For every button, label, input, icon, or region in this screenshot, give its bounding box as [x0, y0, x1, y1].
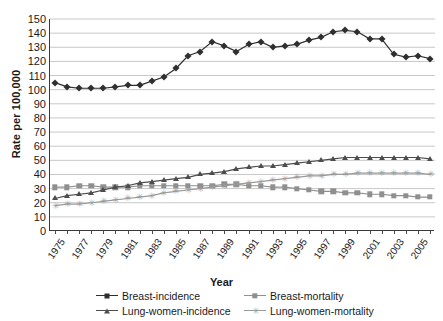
- legend-item-lung-women-incidence[interactable]: Lung-women-incidence: [96, 303, 244, 318]
- x-axis-tick-label: 1975: [46, 237, 67, 261]
- data-point-marker: [136, 194, 143, 201]
- data-point-marker: [100, 198, 107, 205]
- y-axis-tick-label: 90: [34, 98, 46, 109]
- y-axis-title: Rate per 100,000: [10, 54, 22, 174]
- x-axis-tick-label: 1981: [119, 237, 140, 261]
- legend-label: Lung-women-mortality: [270, 305, 374, 317]
- legend-label: Breast-incidence: [122, 290, 200, 302]
- x-axis-tick-label: 1989: [216, 237, 237, 261]
- data-point-marker: [366, 170, 373, 177]
- x-axis-tick-label: 1999: [337, 237, 358, 261]
- x-axis-tick-label: 1977: [70, 237, 91, 261]
- data-point-marker: [64, 201, 71, 208]
- legend-label: Breast-mortality: [270, 290, 344, 302]
- x-axis-tick-label: 1983: [143, 237, 164, 261]
- x-axis-tick-label: 1987: [191, 237, 212, 261]
- x-axis-tick-label: 1979: [95, 237, 116, 261]
- data-point-marker: [148, 192, 155, 199]
- y-axis-tick-label: 60: [34, 141, 46, 152]
- y-axis-tick-label: 50: [34, 155, 46, 166]
- y-axis-tick-label: 0: [40, 226, 46, 237]
- data-point-marker: [269, 177, 276, 184]
- data-point-marker: [293, 174, 300, 181]
- y-axis-tick-label: 100: [28, 84, 46, 95]
- data-point-marker: [306, 172, 313, 179]
- legend-item-lung-women-mortality[interactable]: Lung-women-mortality: [244, 303, 394, 318]
- plot-area: 0102030405060708090100110120130140150197…: [49, 19, 434, 231]
- data-point-marker: [390, 170, 397, 177]
- y-axis-tick-label: 120: [28, 56, 46, 67]
- y-axis-tick-label: 150: [28, 14, 46, 25]
- chart-container: Rate per 100,000 01020304050607080901001…: [0, 0, 443, 321]
- legend-item-breast-mortality[interactable]: Breast-mortality: [244, 288, 394, 303]
- data-point-marker: [197, 185, 204, 192]
- y-axis-tick-label: 30: [34, 183, 46, 194]
- data-point-marker: [76, 201, 83, 208]
- y-axis-tick-label: 80: [34, 112, 46, 123]
- plot-inner: 0102030405060708090100110120130140150197…: [50, 19, 434, 230]
- y-axis-tick-label: 140: [28, 28, 46, 39]
- diamond-marker-icon: [96, 290, 118, 301]
- data-point-marker: [354, 170, 361, 177]
- data-point-marker: [185, 187, 192, 194]
- data-point-marker: [414, 170, 421, 177]
- data-point-marker: [221, 182, 228, 189]
- data-point-marker: [402, 170, 409, 177]
- square-marker-icon: [244, 290, 266, 301]
- data-point-marker: [378, 170, 385, 177]
- y-axis-tick-label: 40: [34, 169, 46, 180]
- data-point-marker: [112, 196, 119, 203]
- x-axis-tick-label: 2001: [361, 237, 382, 261]
- y-axis-tick-label: 130: [28, 42, 46, 53]
- data-point-marker: [233, 181, 240, 188]
- x-axis-tick-label: 1985: [167, 237, 188, 261]
- data-point-marker: [209, 184, 216, 191]
- data-point-marker: [342, 171, 349, 178]
- x-axis-tick-label: 1995: [288, 237, 309, 261]
- data-point-marker: [124, 195, 131, 202]
- x-axis-tick-label: 1991: [240, 237, 261, 261]
- triangle-marker-icon: [96, 305, 118, 316]
- x-axis-tick-label: 2003: [385, 237, 406, 261]
- x-axis-tick-label: 1993: [264, 237, 285, 261]
- x-marker-icon: [244, 305, 266, 316]
- y-axis-tick-label: 10: [34, 211, 46, 222]
- data-point-marker: [427, 171, 434, 178]
- y-axis-tick-label: 20: [34, 197, 46, 208]
- legend-label: Lung-women-incidence: [122, 305, 231, 317]
- y-axis-tick-label: 110: [28, 70, 46, 81]
- data-point-marker: [257, 178, 264, 185]
- legend-item-breast-incidence[interactable]: Breast-incidence: [96, 288, 244, 303]
- y-axis-tick-label: 70: [34, 127, 46, 138]
- x-axis-title: Year: [0, 276, 443, 288]
- data-point-marker: [52, 202, 59, 209]
- data-point-marker: [281, 175, 288, 182]
- data-point-marker: [160, 189, 167, 196]
- x-axis-tick-label: 2005: [409, 237, 430, 261]
- x-axis-tick-label: 1997: [312, 237, 333, 261]
- data-point-marker: [88, 199, 95, 206]
- data-point-marker: [172, 188, 179, 195]
- data-point-marker: [245, 179, 252, 186]
- data-point-marker: [330, 171, 337, 178]
- chart-legend: Breast-incidenceBreast-mortalityLung-wom…: [96, 288, 396, 318]
- data-point-marker: [318, 172, 325, 179]
